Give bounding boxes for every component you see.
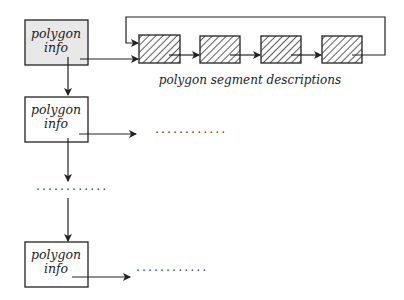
polygon-info-node-2: polygon info: [25, 97, 88, 142]
node-2-label-line1: polygon: [31, 102, 81, 117]
ellipsis-more-nodes: ............: [35, 181, 107, 192]
node-3-label-line1: polygon: [31, 247, 81, 262]
polygon-info-node-3: polygon info: [25, 242, 88, 287]
node-1-label-line2: info: [44, 40, 68, 55]
node-3-label-line2: info: [44, 261, 68, 276]
node-2-label-line2: info: [44, 116, 68, 131]
segment-box-1: [139, 35, 180, 63]
segment-caption: polygon segment descriptions: [159, 73, 341, 87]
polygon-info-node-1: polygon info: [25, 20, 88, 65]
segment-box-4: [322, 36, 362, 63]
node-1-label-line1: polygon: [31, 26, 81, 41]
ellipsis-node2-segments: ............: [154, 124, 226, 135]
ellipsis-node3-segments: ............: [135, 262, 207, 273]
segment-list: [139, 35, 362, 63]
segment-box-3: [261, 36, 301, 63]
segment-box-2: [200, 36, 240, 63]
polygon-structure-diagram: polygon info polygon segment description…: [0, 0, 404, 300]
